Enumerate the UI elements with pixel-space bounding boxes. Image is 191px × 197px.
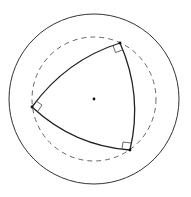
triangle-side-bottom [32, 107, 130, 150]
triangle-side-right [120, 43, 135, 150]
right-angle-marker-left [36, 101, 42, 111]
vertex-bottom-right [129, 149, 132, 152]
poincare-disk-diagram [0, 0, 191, 197]
triangle-side-top-left [32, 43, 120, 107]
vertex-top [119, 42, 122, 45]
vertex-left [31, 106, 34, 109]
center-point [93, 98, 96, 101]
right-angle-marker-bottom-right [122, 142, 131, 149]
